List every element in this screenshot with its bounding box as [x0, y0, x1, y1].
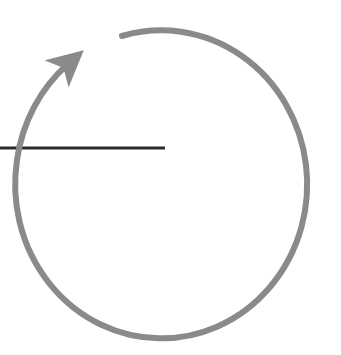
rotation-diagram [0, 0, 341, 355]
rotation-arc [15, 30, 307, 338]
